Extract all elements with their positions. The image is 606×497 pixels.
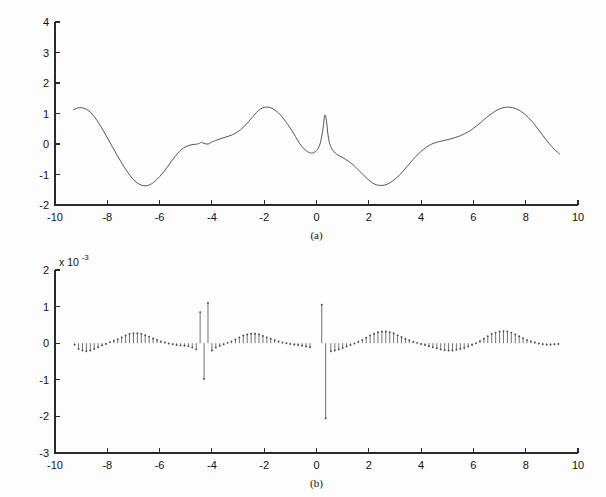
stem-marker: [467, 346, 469, 348]
x-tick-label: -4: [207, 459, 217, 471]
stem-marker: [105, 343, 107, 345]
x-tick-label: -2: [259, 211, 269, 223]
stem-marker: [140, 333, 142, 335]
panel-caption: (b): [310, 477, 323, 490]
stem-marker: [301, 345, 303, 347]
stem-marker: [180, 344, 182, 346]
stem-marker: [258, 333, 260, 335]
stem-marker: [238, 336, 240, 338]
stem-marker: [85, 350, 87, 352]
x-tick-label: 8: [523, 459, 529, 471]
stem-marker: [487, 335, 489, 337]
stem-marker: [514, 333, 516, 335]
stem-marker: [270, 338, 272, 340]
stem-marker: [377, 331, 379, 333]
stem-marker: [365, 337, 367, 339]
stem-marker: [353, 343, 355, 345]
y-tick-label: -3: [39, 447, 49, 459]
stem-marker: [211, 350, 213, 352]
stem-marker: [164, 342, 166, 344]
stem-marker: [234, 339, 236, 341]
stem-marker: [144, 334, 146, 336]
x-tick-label: -10: [47, 459, 63, 471]
x-tick-label: 0: [313, 459, 319, 471]
stem-marker: [168, 343, 170, 345]
y-tick-label: 2: [43, 264, 49, 276]
x-tick-label: 6: [470, 211, 476, 223]
data-curve: [73, 107, 559, 186]
stem-marker: [82, 350, 84, 352]
x-tick-label: -6: [155, 459, 165, 471]
stem-marker: [420, 343, 422, 345]
y-axis-multiplier: x 10-3: [59, 253, 89, 268]
stem-marker: [350, 344, 352, 346]
x-tick-label: 4: [418, 459, 424, 471]
stem-marker: [117, 338, 119, 340]
panel-caption: (a): [310, 229, 323, 242]
stem-marker: [342, 347, 344, 349]
stem-marker: [385, 331, 387, 333]
stem-marker: [369, 335, 371, 337]
stem-marker: [550, 344, 552, 346]
stem-marker: [207, 302, 209, 304]
stem-marker: [483, 338, 485, 340]
stem-marker: [448, 350, 450, 352]
x-tick-label: 0: [313, 211, 319, 223]
y-tick-label: -1: [39, 169, 49, 181]
stem-marker: [510, 332, 512, 334]
stem-marker: [285, 342, 287, 344]
stem-marker: [518, 335, 520, 337]
stem-marker: [357, 341, 359, 343]
y-tick-label: -2: [39, 199, 49, 211]
x-tick-label: -8: [102, 211, 112, 223]
stem-marker: [219, 345, 221, 347]
stem-marker: [148, 336, 150, 338]
stem-marker: [254, 333, 256, 335]
stem-marker: [440, 348, 442, 350]
stem-marker: [74, 344, 76, 346]
y-tick-label: 1: [43, 301, 49, 313]
y-tick-label: 2: [43, 77, 49, 89]
stem-marker: [479, 340, 481, 342]
svg-text:x 10: x 10: [59, 256, 79, 268]
stem-marker: [381, 331, 383, 333]
svg-text:-3: -3: [82, 253, 89, 262]
stem-marker: [393, 332, 395, 334]
x-tick-label: -8: [102, 459, 112, 471]
stem-marker: [436, 347, 438, 349]
stem-marker: [125, 335, 127, 337]
x-tick-label: 10: [572, 211, 584, 223]
stem-marker: [459, 348, 461, 350]
stem-marker: [274, 339, 276, 341]
stem-marker: [495, 332, 497, 334]
stem-marker: [297, 344, 299, 346]
stem-marker: [195, 348, 197, 350]
stem-marker: [424, 344, 426, 346]
stem-marker: [397, 334, 399, 336]
stem-marker: [78, 348, 80, 350]
stem-marker: [183, 345, 185, 347]
stem-marker: [289, 343, 291, 345]
stem-marker: [432, 346, 434, 348]
stem-marker: [227, 342, 229, 344]
stem-marker: [121, 336, 123, 338]
stem-marker: [305, 346, 307, 348]
stem-marker: [554, 343, 556, 345]
stem-marker: [401, 336, 403, 338]
stem-marker: [176, 344, 178, 346]
panel-a: -2-101234-10-8-6-4-20246810(a): [0, 0, 606, 248]
stem-marker: [97, 346, 99, 348]
stem-marker: [491, 333, 493, 335]
stem-marker: [499, 331, 501, 333]
x-tick-label: 8: [523, 211, 529, 223]
stem-marker: [538, 343, 540, 345]
stem-marker: [172, 343, 174, 345]
stem-marker: [389, 331, 391, 333]
stem-marker: [325, 417, 327, 419]
x-tick-label: 2: [366, 211, 372, 223]
stem-marker: [187, 345, 189, 347]
stem-marker: [321, 304, 323, 306]
stem-marker: [542, 343, 544, 345]
stem-marker: [113, 340, 115, 342]
panel-b: -3-2-1012-10-8-6-4-20246810x 10-3(b): [0, 248, 606, 497]
